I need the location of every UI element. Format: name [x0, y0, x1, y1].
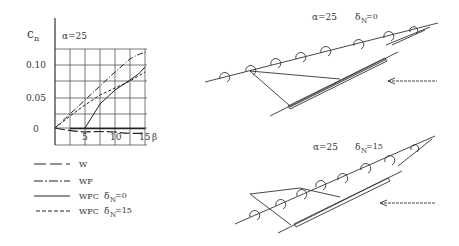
x-tick-5: 5: [82, 132, 88, 142]
legend-delta-15-val: =15: [115, 206, 132, 215]
diagram-bottom-alpha: α=25: [313, 142, 338, 152]
y-axis-label: c: [27, 27, 34, 41]
wing-outline-bottom: [250, 188, 340, 225]
vortex-diagram-bottom: α=25 δ N =15: [235, 136, 435, 233]
vortex-diagram-top: α=25 δ N =0: [205, 12, 438, 116]
legend-label-wf: WF: [79, 177, 93, 186]
y-axis-label-sub: n: [34, 34, 39, 43]
y-tick-005: 0.05: [26, 93, 46, 103]
legend-label-w: W: [79, 160, 88, 169]
nose-line-bottom: [398, 139, 432, 166]
diagram-top-delta-val: =0: [366, 12, 378, 21]
legend-label-wfc-15: WFC: [79, 207, 99, 216]
fuselage-inner: [290, 60, 386, 108]
vortex-core-line: [205, 23, 438, 82]
legend-label-wfc-0: WFC: [79, 192, 99, 201]
y-tick-010: 0.10: [26, 60, 46, 70]
x-axis-label: β: [152, 132, 157, 142]
diagram-bottom-delta-val: =15: [366, 142, 383, 151]
cn-chart: c n α=25 0 0.05 0.10 5 10 15 β: [26, 18, 157, 145]
diagram-top-alpha: α=25: [312, 12, 337, 22]
y-tick-0: 0: [33, 124, 39, 134]
legend-delta-0: δ: [104, 191, 109, 201]
diagram-bottom-delta: δ: [355, 142, 360, 152]
figure: c n α=25 0 0.05 0.10 5 10 15 β: [0, 0, 459, 246]
diagram-top-delta: δ: [355, 12, 360, 22]
legend-delta-0-val: =0: [115, 191, 127, 200]
nose-lines: [386, 27, 430, 45]
legend: W WF WFC δ N =0 WFC δ N =15: [34, 160, 132, 219]
x-tick-10: 10: [110, 132, 122, 142]
vortex-loops: [220, 27, 418, 82]
legend-delta-15: δ: [104, 206, 109, 216]
fuselage-line: [270, 52, 398, 116]
alpha-label: α=25: [62, 31, 87, 41]
fuselage-body-bottom: [294, 178, 390, 227]
